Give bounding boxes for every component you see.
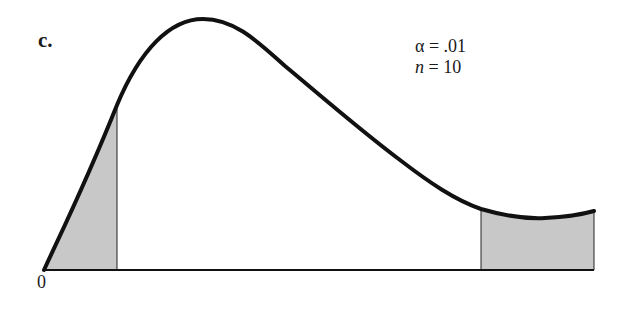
chi-square-diagram: c. α = .01 n = 10 0 [0, 0, 621, 309]
part-label: c. [38, 28, 53, 53]
sample-size-annotation: n = 10 [415, 57, 461, 78]
n-value: = 10 [424, 57, 461, 77]
origin-tick-label: 0 [37, 272, 46, 293]
distribution-plot [0, 0, 621, 309]
n-variable: n [415, 57, 424, 77]
alpha-annotation: α = .01 [415, 36, 466, 57]
